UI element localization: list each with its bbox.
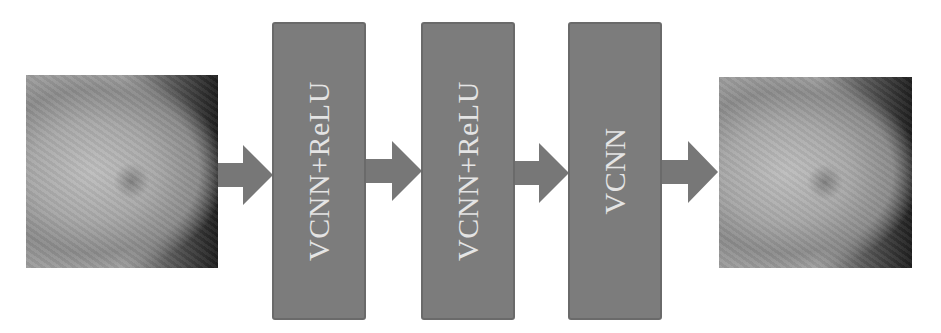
output-image [719, 77, 912, 268]
layer-box-2: VCNN+ReLU [421, 22, 515, 320]
layer-box-1: VCNN+ReLU [272, 22, 366, 320]
input-image [26, 75, 218, 268]
layer-box-3: VCNN [568, 22, 662, 320]
arrow-icon [218, 145, 273, 205]
layer-label: VCNN+ReLU [302, 81, 336, 261]
arrow-icon [515, 143, 569, 203]
arrow-icon [662, 141, 718, 203]
layer-label: VCNN [598, 127, 632, 214]
arrow-icon [366, 141, 422, 201]
layer-label: VCNN+ReLU [451, 81, 485, 261]
